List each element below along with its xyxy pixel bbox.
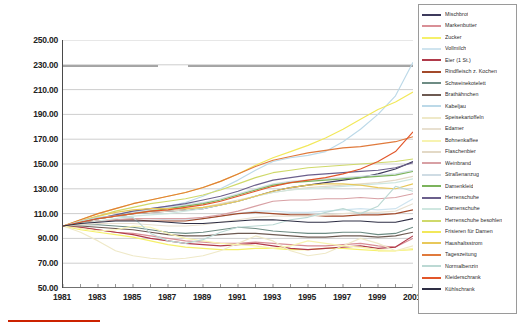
legend-item[interactable]: Normalbenzin — [422, 261, 514, 272]
legend-item[interactable]: Markenbutter — [422, 20, 514, 31]
legend-item-label: Tageszeitung — [445, 249, 477, 260]
legend-item[interactable]: Weinbrand — [422, 158, 514, 169]
legend-color-swatch — [422, 277, 441, 279]
legend-item-label: Zucker — [445, 32, 462, 43]
legend-item-label: Vollmilch — [445, 43, 466, 54]
legend-item[interactable]: Herrenschuhe besohlen — [422, 215, 514, 226]
legend-item[interactable]: Eier (1 St.) — [422, 55, 514, 66]
price-index-line-chart: 50.0070.0090.00110.00130.00150.00170.001… — [0, 0, 520, 329]
x-axis-tick: 1995 — [291, 292, 323, 302]
chart-legend: MischbrotMarkenbutterZuckerVollmilchEier… — [418, 4, 517, 314]
legend-item-label: Rindfleisch z. Kochen — [445, 66, 497, 77]
legend-color-swatch — [422, 162, 441, 164]
x-axis-tick: 1991 — [221, 292, 253, 302]
legend-color-swatch — [422, 14, 441, 16]
legend-item[interactable]: Brathähnchen — [422, 89, 514, 100]
y-axis-tick: 70.00 — [38, 258, 58, 268]
series-line — [63, 92, 413, 226]
legend-item[interactable]: Vollmilch — [422, 43, 514, 54]
y-axis-tick: 190.00 — [33, 109, 58, 119]
legend-item[interactable]: Flaschenbier — [422, 146, 514, 157]
legend-item-label: Kabeljau — [445, 101, 466, 112]
series-line — [63, 179, 413, 226]
legend-item-label: Damenschuhe — [445, 203, 480, 214]
y-axis-tick: 210.00 — [33, 85, 58, 95]
x-axis-tick: 1987 — [151, 292, 183, 302]
y-axis-tick: 170.00 — [33, 134, 58, 144]
y-axis-tick: 250.00 — [33, 35, 58, 45]
legend-color-swatch — [422, 59, 441, 61]
legend-item[interactable]: Rindfleisch z. Kochen — [422, 66, 514, 77]
y-axis-tick: 230.00 — [33, 60, 58, 70]
legend-item[interactable]: Tageszeitung — [422, 249, 514, 260]
legend-item[interactable]: Edamer — [422, 123, 514, 134]
series-line — [63, 226, 413, 259]
legend-color-swatch — [422, 288, 441, 290]
legend-item[interactable]: Haushaltsstrom — [422, 238, 514, 249]
legend-color-swatch — [422, 82, 441, 84]
legend-color-swatch — [422, 25, 441, 27]
legend-color-swatch — [422, 128, 441, 130]
legend-color-swatch — [422, 208, 441, 210]
x-axis-tick: 1985 — [116, 292, 148, 302]
legend-item[interactable]: Damenkleid — [422, 181, 514, 192]
legend-item-label: Kühlschrank — [445, 284, 475, 295]
legend-item-label: Edamer — [445, 123, 464, 134]
legend-item-label: Frisieren für Damen — [445, 226, 493, 237]
legend-item-label: Kleiderschrank — [445, 272, 481, 283]
legend-item[interactable]: Bohnenkaffee — [422, 135, 514, 146]
legend-color-swatch — [422, 71, 441, 73]
legend-color-swatch — [422, 220, 441, 222]
legend-item-label: Herrenschuhe besohlen — [445, 215, 502, 226]
legend-item-label: Straßenanzug — [445, 169, 479, 180]
legend-color-swatch — [422, 174, 441, 176]
legend-item-label: Bohnenkaffee — [445, 135, 478, 146]
x-axis-tick: 1989 — [186, 292, 218, 302]
legend-item-label: Herrenschuhe — [445, 192, 479, 203]
legend-item[interactable]: Kühlschrank — [422, 284, 514, 295]
legend-item-label: Markenbutter — [445, 20, 477, 31]
legend-item[interactable]: Schweinekotelett — [422, 78, 514, 89]
legend-item[interactable]: Mischbrot — [422, 9, 514, 20]
x-axis-tick: 1993 — [256, 292, 288, 302]
legend-item[interactable]: Zucker — [422, 32, 514, 43]
y-axis-tick: 150.00 — [33, 159, 58, 169]
legend-item-label: Normalbenzin — [445, 261, 478, 272]
legend-color-swatch — [422, 242, 441, 244]
x-axis-tick: 1981 — [46, 292, 78, 302]
x-axis-tick: 1997 — [326, 292, 358, 302]
legend-item-label: Haushaltsstrom — [445, 238, 483, 249]
plot-area — [62, 40, 412, 288]
legend-item-label: Flaschenbier — [445, 146, 476, 157]
legend-item[interactable]: Damenschuhe — [422, 203, 514, 214]
legend-item[interactable]: Herrenschuhe — [422, 192, 514, 203]
legend-color-swatch — [422, 105, 441, 107]
y-axis-tick: 110.00 — [34, 209, 58, 219]
legend-color-swatch — [422, 94, 441, 96]
legend-item[interactable]: Kleiderschrank — [422, 272, 514, 283]
legend-item[interactable]: Speisekartoffeln — [422, 112, 514, 123]
series-lines — [63, 40, 413, 288]
y-axis-labels: 50.0070.0090.00110.00130.00150.00170.001… — [0, 0, 58, 329]
legend-color-swatch — [422, 140, 441, 142]
footer-rule — [8, 320, 100, 322]
legend-item[interactable]: Straßenanzug — [422, 169, 514, 180]
legend-item-label: Weinbrand — [445, 158, 471, 169]
legend-color-swatch — [422, 265, 441, 267]
legend-color-swatch — [422, 185, 441, 187]
legend-item-label: Eier (1 St.) — [445, 55, 471, 66]
legend-item-label: Mischbrot — [445, 9, 468, 20]
x-axis-tick: 1999 — [361, 292, 393, 302]
legend-color-swatch — [422, 117, 441, 119]
legend-item-label: Brathähnchen — [445, 89, 479, 100]
y-axis-tick: 90.00 — [38, 233, 58, 243]
x-axis-tick: 1983 — [81, 292, 113, 302]
legend-item-label: Schweinekotelett — [445, 78, 486, 89]
legend-item[interactable]: Kabeljau — [422, 101, 514, 112]
legend-color-swatch — [422, 231, 441, 233]
legend-color-swatch — [422, 37, 441, 39]
legend-item[interactable]: Frisieren für Damen — [422, 226, 514, 237]
legend-color-swatch — [422, 197, 441, 199]
y-axis-tick: 130.00 — [33, 184, 58, 194]
legend-color-swatch — [422, 151, 441, 153]
